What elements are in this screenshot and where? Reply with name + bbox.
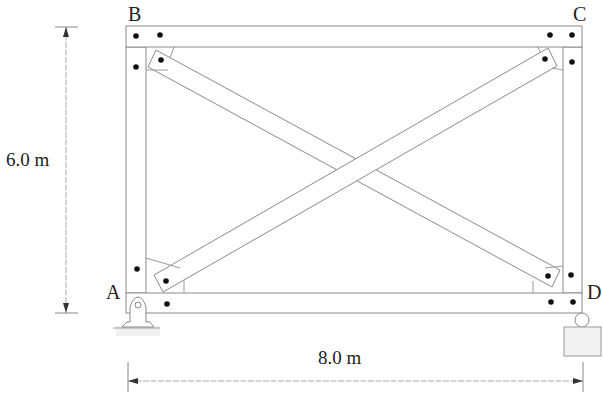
beam-a-d [126, 293, 582, 313]
arrow-left-icon [128, 378, 138, 384]
height-dimension [55, 27, 78, 313]
node-label-b: B [128, 3, 141, 25]
node-label-c: C [573, 3, 586, 25]
arrow-up-icon [63, 27, 69, 37]
braced-frame-diagram: 6.0 m 8.0 m [0, 0, 603, 401]
node-label-d: D [587, 281, 601, 303]
column-c-d [563, 47, 582, 293]
arrow-down-icon [63, 303, 69, 313]
arrow-right-icon [573, 378, 583, 384]
roller-support-d [564, 313, 601, 356]
width-label: 8.0 m [318, 347, 362, 368]
column-a-b [126, 47, 146, 293]
beam-b-c [126, 26, 582, 47]
node-label-a: A [106, 281, 121, 303]
height-label: 6.0 m [6, 149, 50, 170]
